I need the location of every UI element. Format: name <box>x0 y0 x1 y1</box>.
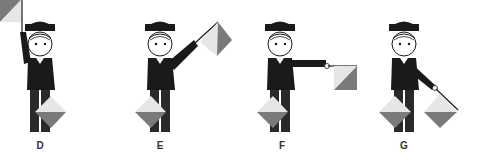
semaphore-figure-g: G <box>360 0 479 168</box>
semaphore-figure-e: E <box>120 0 240 168</box>
semaphore-figure-d: D <box>0 0 120 168</box>
letter-label: E <box>150 140 170 151</box>
sailor-signal-f-illustration <box>240 0 360 168</box>
sailor-signal-g-illustration <box>360 0 479 168</box>
letter-label: G <box>394 140 414 151</box>
semaphore-figure-f: F <box>240 0 360 168</box>
letter-label: D <box>30 140 50 151</box>
sailor-signal-d-illustration <box>0 0 120 168</box>
letter-label: F <box>272 140 292 151</box>
sailor-signal-e-illustration <box>120 0 240 168</box>
